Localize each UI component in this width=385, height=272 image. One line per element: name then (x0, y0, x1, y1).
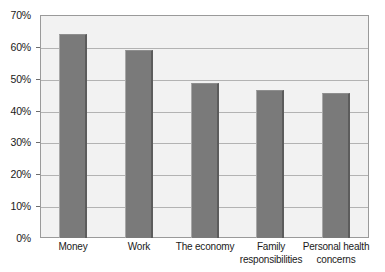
x-axis: MoneyWorkThe economyFamilyresponsibiliti… (40, 241, 369, 272)
y-axis-tick-label: 20% (11, 169, 31, 180)
y-axis-tick-label: 0% (16, 233, 31, 244)
y-axis-tick-mark (36, 111, 40, 112)
bar (125, 50, 153, 238)
y-axis-tick-mark (36, 47, 40, 48)
y-axis-tick-label: 60% (11, 41, 31, 52)
y-axis-tick-mark (36, 174, 40, 175)
bar (191, 83, 219, 238)
x-axis-tick-label-line: concerns (295, 254, 377, 267)
bar (59, 34, 87, 238)
bar-series (40, 15, 369, 238)
y-axis-tick-mark (36, 142, 40, 143)
y-axis-tick-label: 40% (11, 105, 31, 116)
bar (256, 90, 284, 238)
bar-chart-figure: 0%10%20%30%40%50%60%70% MoneyWorkThe eco… (0, 0, 385, 272)
x-axis-tick-label: Personal healthconcerns (295, 241, 377, 266)
y-axis: 0%10%20%30%40%50%60%70% (0, 0, 36, 272)
y-axis-tick-mark (36, 206, 40, 207)
x-axis-tick-label-line: Personal health (295, 241, 377, 254)
y-axis-tick-label: 10% (11, 201, 31, 212)
y-axis-tick-label: 70% (11, 10, 31, 21)
y-axis-tick-label: 50% (11, 73, 31, 84)
y-axis-tick-label: 30% (11, 137, 31, 148)
y-axis-tick-mark (36, 79, 40, 80)
bar (322, 93, 350, 238)
